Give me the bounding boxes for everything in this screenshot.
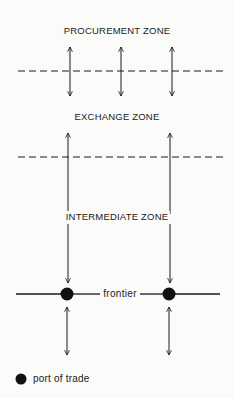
- legend-port-dot-icon: [16, 374, 27, 385]
- frontier-label: frontier: [103, 288, 137, 299]
- zone-label-exchange: EXCHANGE ZONE: [73, 111, 162, 122]
- port-of-trade-dot: [163, 288, 176, 301]
- port-of-trade-dot: [61, 288, 74, 301]
- trade-zones-diagram: [0, 0, 234, 398]
- zone-label-procurement: PROCUREMENT ZONE: [64, 25, 170, 36]
- zone-label-intermediate: INTERMEDIATE ZONE: [64, 211, 170, 222]
- legend-label: port of trade: [33, 373, 90, 384]
